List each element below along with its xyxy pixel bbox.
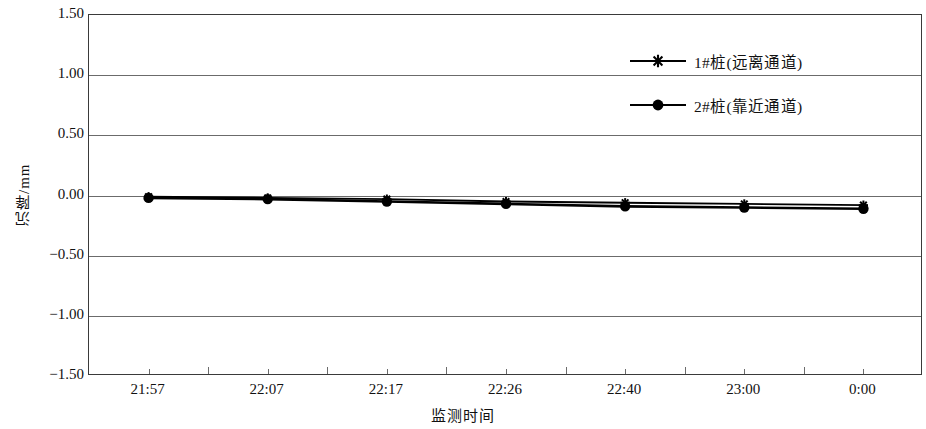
y-axis-tick-label: 1.00 [36,66,84,81]
legend-item-series-1: 1#桩(远离通道) [630,46,880,76]
settlement-line-chart: 沉降/mm 1.501.000.500.00−0.50−1.00−1.50 21… [0,0,926,429]
data-point-marker-circle [739,202,749,212]
x-axis-tick-label: 23:00 [726,381,760,398]
x-axis-tick-label: 0:00 [849,381,876,398]
y-axis-tick-label: 0.50 [36,126,84,141]
legend: 1#桩(远离通道) 2#桩(靠近通道) [630,46,880,134]
x-axis-title: 监测时间 [0,404,926,425]
y-axis-tick-label: −1.00 [36,307,84,322]
legend-label-series-2: 2#桩(靠近通道) [694,94,803,116]
x-axis-tick-label: 22:26 [488,381,522,398]
y-axis-tick-label: 1.50 [36,6,84,21]
data-point-marker-circle [382,196,392,206]
y-axis-tick-label: 0.00 [36,187,84,202]
x-axis-tick-label: 22:40 [607,381,641,398]
legend-label-series-1: 1#桩(远离通道) [694,50,803,72]
data-point-marker-circle [263,194,273,204]
data-point-marker-circle [858,204,868,214]
data-point-marker-circle [620,201,630,211]
data-point-marker-circle [501,199,511,209]
x-axis-tick-label: 21:57 [130,381,164,398]
legend-item-series-2: 2#桩(靠近通道) [630,90,880,120]
data-point-marker-circle [143,193,153,203]
y-axis-tick-labels: 1.501.000.500.00−0.50−1.00−1.50 [32,0,84,429]
legend-marker-star-icon [630,53,686,69]
x-axis-tick-label: 22:07 [250,381,284,398]
y-axis-tick-label: −1.50 [36,367,84,382]
y-axis-tick-label: −0.50 [36,247,84,262]
legend-marker-circle-icon [630,97,686,113]
x-axis-tick-label: 22:17 [369,381,403,398]
